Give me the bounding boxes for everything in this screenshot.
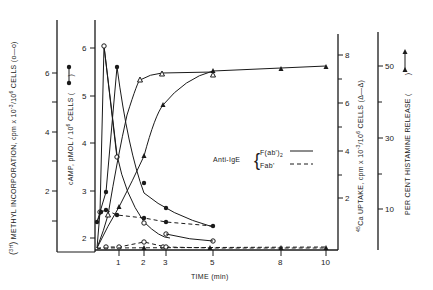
hist-tick: 50 [385,62,394,71]
hist-tick: 10 [385,205,394,214]
legend: Anti-IgE { F(ab')2 Fab' [213,149,313,170]
x-tick: 3 [163,258,168,267]
ca-tick: 8 [345,51,350,60]
hist-tick: 30 [385,134,394,143]
x-axis: 1 2 3 5 8 10 TIME (min) [95,250,338,281]
svg-text:PER CENT HISTAMINE RELEASE (): PER CENT HISTAMINE RELEASE () [404,73,412,215]
camp-tick: 4 [82,139,87,148]
ca-tick: 4 [345,147,350,156]
camp-axis: 6 5 4 3 2 [82,20,95,252]
methyl-tick: 4 [45,128,50,137]
ca-tick: 6 [345,99,350,108]
svg-text:cAMP, pMOL / 106 CELLS (): cAMP, pMOL / 106 CELLS () [65,74,75,185]
legend-entry-fab: Fab' [260,162,275,169]
svg-text:(3H) METHYL INCORPORATIO: (3H) METHYL INCORPORATION, cpm x 10-3/10… [8,41,18,255]
x-tick: 2 [141,258,146,267]
methyl-tick: 2 [45,187,50,196]
ca-tick: 2 [345,194,350,203]
camp-tick: 2 [82,234,87,243]
histamine-legend-marker [403,49,408,72]
histamine-axis: 50 30 10 [378,32,394,250]
histamine-axis-label: PER CENT HISTAMINE RELEASE () [404,73,412,215]
x-tick: 1 [116,258,121,267]
series-histamine-fab [97,245,329,250]
camp-axis-label: cAMP, pMOL / 106 CELLS () [65,74,75,185]
chart: 6 4 2 (3H) METHYL INCORPORATION, cpm x 1… [0,0,433,290]
camp-tick: 6 [82,44,87,53]
series-methyl-fab2 [97,44,215,248]
series-camp-fab2 [95,65,215,228]
svg-text:45Ca UPTAKE, cpm x 10-3/106 CE: 45Ca UPTAKE, cpm x 10-3/106 CELLS (Δ—Δ) [355,80,365,232]
methyl-axis-label: (3H) METHYL INCORPORATION, cpm x 10-3/10… [8,41,18,255]
x-tick: 10 [321,258,330,267]
methyl-tick: 6 [45,69,50,78]
ca-axis-label: 45Ca UPTAKE, cpm x 10-3/106 CELLS (Δ—Δ) [355,80,365,232]
camp-tick: 5 [82,92,87,101]
legend-entry-fab2: F(ab')2 [260,149,283,158]
ca-axis: 8 6 4 2 [338,34,350,250]
legend-title: Anti-IgE [213,156,240,164]
x-tick: 5 [210,258,215,267]
camp-tick: 3 [82,187,87,196]
x-tick: 8 [278,258,283,267]
series-camp-fab [97,208,213,226]
x-axis-label: TIME (min) [191,273,229,281]
